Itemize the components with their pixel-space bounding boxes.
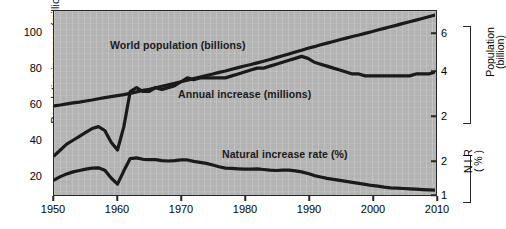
right-upper-tick-mark [431,70,437,72]
right-upper-tick-mark [431,115,437,117]
right-upper-tick-label: 2 [441,110,447,122]
x-tick-label: 2010 [425,203,449,215]
right-upper-bracket [463,26,471,124]
left-tick-label: 20 [30,170,42,182]
world-population-label: World population (billions) [110,39,245,51]
x-tick-mark [180,196,182,201]
right-lower-tick-mark [431,160,437,162]
right-upper-tick-label: 6 [441,27,447,39]
x-tick-mark [372,196,374,201]
plot-area [53,10,437,196]
x-tick-label: 1960 [105,203,129,215]
left-tick-label: 40 [30,134,42,146]
x-tick-label: 1950 [41,203,65,215]
x-tick-label: 1970 [169,203,193,215]
natural-increase-rate-line [54,158,435,190]
x-tick-label: 2000 [361,203,385,215]
annual-increase-line [54,56,435,155]
right-lower-tick-label: 1 [441,189,447,201]
natural-increase-rate-label: Natural increase rate (%) [222,148,348,160]
x-tick-label: 1980 [233,203,257,215]
left-tick-label: 60 [30,98,42,110]
x-tick-mark [52,196,54,201]
x-tick-mark [436,196,438,201]
right-upper-title-line2: (billion) [494,4,506,100]
right-lower-tick-mark [431,194,437,196]
x-tick-mark [116,196,118,201]
annual-increase-label: Annual increase (millions) [178,88,311,100]
right-lower-tick-label: 2 [441,155,447,167]
right-lower-title-line2: ( % ) [472,138,484,184]
right-upper-tick-mark [431,32,437,34]
x-tick-mark [244,196,246,201]
x-tick-label: 1990 [297,203,321,215]
x-tick-mark [308,196,310,201]
left-tick-label: 80 [30,62,42,74]
right-upper-tick-label: 4 [441,65,447,77]
left-tick-label: 100 [24,26,42,38]
